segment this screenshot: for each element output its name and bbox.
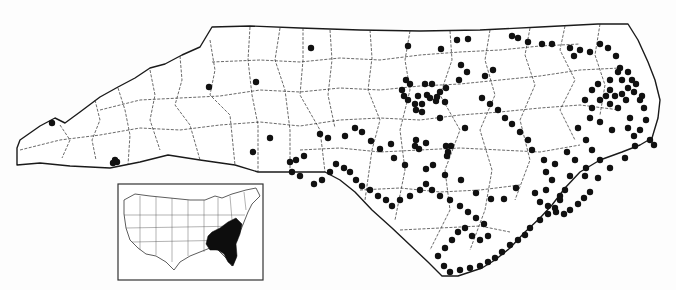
occurrence-dot: [607, 165, 613, 171]
occurrence-dot: [458, 177, 464, 183]
occurrence-dot: [423, 181, 429, 187]
occurrence-dot: [353, 177, 359, 183]
occurrence-dot: [609, 127, 615, 133]
occurrence-dot: [462, 125, 468, 131]
occurrence-dot: [619, 77, 625, 83]
occurrence-dot: [597, 41, 603, 47]
occurrence-dot: [543, 169, 549, 175]
occurrence-dot: [522, 232, 528, 238]
occurrence-dot: [308, 45, 314, 51]
occurrence-dot: [430, 162, 436, 168]
occurrence-dot: [549, 177, 555, 183]
occurrence-dot: [368, 138, 374, 144]
occurrence-dot: [405, 97, 411, 103]
occurrence-dot: [612, 93, 618, 99]
occurrence-dot: [509, 33, 515, 39]
occurrence-dot: [567, 45, 573, 51]
occurrence-dot: [301, 153, 307, 159]
occurrence-dot: [447, 269, 453, 275]
occurrence-dot: [525, 137, 531, 143]
occurrence-dot: [572, 157, 578, 163]
occurrence-dot: [319, 177, 325, 183]
occurrence-dot: [641, 105, 647, 111]
occurrence-dot: [391, 155, 397, 161]
occurrence-dot: [49, 120, 55, 126]
occurrence-dot: [415, 93, 421, 99]
occurrence-dot: [327, 169, 333, 175]
occurrence-dot: [517, 129, 523, 135]
occurrence-dot: [545, 211, 551, 217]
occurrence-dot: [539, 41, 545, 47]
occurrence-dot: [631, 89, 637, 95]
occurrence-dot: [485, 233, 491, 239]
occurrence-dot: [615, 69, 621, 75]
occurrence-dot: [287, 159, 293, 165]
occurrence-dot: [437, 89, 443, 95]
occurrence-dot: [482, 73, 488, 79]
occurrence-dot: [605, 45, 611, 51]
occurrence-dot: [341, 165, 347, 171]
north-carolina-map: [0, 0, 676, 290]
us-inset-map: [118, 184, 263, 280]
occurrence-dot: [583, 165, 589, 171]
occurrence-dot: [549, 41, 555, 47]
occurrence-dot: [464, 69, 470, 75]
occurrence-dot: [416, 146, 422, 152]
occurrence-dot: [462, 225, 468, 231]
occurrence-dot: [595, 175, 601, 181]
occurrence-dot: [589, 87, 595, 93]
occurrence-dot: [429, 187, 435, 193]
occurrence-dot: [433, 98, 439, 104]
occurrence-dot: [543, 187, 549, 193]
occurrence-dot: [317, 131, 323, 137]
occurrence-dot: [449, 237, 455, 243]
occurrence-dot: [473, 190, 479, 196]
occurrence-dot: [352, 125, 358, 131]
occurrence-dot: [597, 157, 603, 163]
occurrence-dot: [437, 115, 443, 121]
occurrence-dot: [367, 187, 373, 193]
occurrence-dot: [443, 85, 449, 91]
occurrence-dot: [633, 81, 639, 87]
occurrence-dot: [465, 209, 471, 215]
occurrence-dot: [423, 140, 429, 146]
occurrence-dot: [582, 173, 588, 179]
occurrence-dot: [581, 195, 587, 201]
occurrence-dot: [622, 155, 628, 161]
occurrence-dot: [359, 129, 365, 135]
occurrence-dot: [413, 137, 419, 143]
occurrence-dot: [469, 233, 475, 239]
occurrence-dot: [407, 81, 413, 87]
occurrence-dot: [457, 203, 463, 209]
occurrence-dot: [529, 147, 535, 153]
occurrence-dot: [458, 62, 464, 68]
occurrence-dot: [502, 115, 508, 121]
occurrence-dot: [423, 166, 429, 172]
occurrence-dot: [513, 185, 519, 191]
occurrence-dot: [454, 37, 460, 43]
occurrence-dot: [389, 203, 395, 209]
occurrence-dot: [525, 39, 531, 45]
occurrence-dot: [607, 101, 613, 107]
occurrence-dot: [442, 245, 448, 251]
occurrence-dot: [485, 259, 491, 265]
occurrence-dot: [587, 189, 593, 195]
occurrence-dot: [607, 77, 613, 83]
occurrence-dot: [429, 81, 435, 87]
occurrence-dot: [437, 193, 443, 199]
occurrence-dot: [267, 135, 273, 141]
occurrence-dot: [627, 115, 633, 121]
occurrence-dot: [541, 157, 547, 163]
occurrence-dot: [607, 87, 613, 93]
occurrence-dot: [537, 217, 543, 223]
occurrence-dot: [397, 197, 403, 203]
occurrence-dot: [575, 125, 581, 131]
occurrence-dot: [583, 137, 589, 143]
occurrence-dot: [492, 255, 498, 261]
occurrence-dot: [625, 69, 631, 75]
occurrence-dot: [457, 267, 463, 273]
occurrence-dot: [375, 193, 381, 199]
occurrence-dot: [567, 173, 573, 179]
occurrence-dot: [467, 265, 473, 271]
occurrence-dot: [537, 199, 543, 205]
